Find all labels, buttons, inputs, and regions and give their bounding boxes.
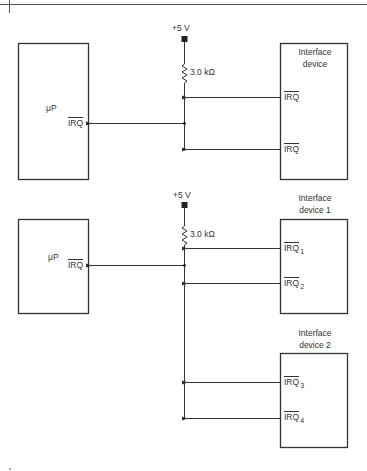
interface-device-1-box bbox=[281, 220, 348, 314]
pin-base: IRQ bbox=[284, 412, 299, 422]
processor-irq-pin-bottom: IRQ bbox=[68, 260, 83, 270]
device-irq-pin-1: IRQ bbox=[284, 92, 299, 102]
junction-dot-bottom bbox=[183, 264, 186, 267]
junction-dot-top bbox=[183, 122, 186, 125]
pin-sub: 2 bbox=[300, 283, 304, 290]
processor-irq-pin-top: IRQ bbox=[68, 118, 83, 128]
device-title-top: Interface device bbox=[283, 47, 347, 69]
device2-irq-pin-4: IRQ4 bbox=[284, 412, 304, 423]
resistor-label-bottom: 3.0 kΩ bbox=[190, 229, 215, 239]
device-title-line2: device bbox=[283, 59, 347, 69]
device1-title: Interface device 1 bbox=[283, 193, 347, 215]
pin-base: IRQ bbox=[284, 377, 299, 387]
device-irq-pin-2: IRQ bbox=[284, 144, 299, 154]
supply-label-bottom: +5 V bbox=[173, 190, 191, 200]
device2-title-line1: Interface bbox=[283, 328, 347, 338]
device1-irq-pin-1: IRQ1 bbox=[284, 243, 304, 254]
device2-irq-pin-3: IRQ3 bbox=[284, 377, 304, 388]
pin-sub: 3 bbox=[300, 382, 304, 389]
device-title-line1: Interface bbox=[283, 47, 347, 57]
supply-label-top: +5 V bbox=[172, 23, 190, 33]
circuit-diagram bbox=[0, 0, 367, 471]
resistor-label-top: 3.0 kΩ bbox=[190, 67, 215, 77]
interface-device-2-box bbox=[281, 354, 348, 448]
device2-title: Interface device 2 bbox=[283, 328, 347, 350]
device1-title-line2: device 1 bbox=[283, 205, 347, 215]
device1-title-line1: Interface bbox=[283, 193, 347, 203]
resistor-icon-bottom bbox=[182, 226, 187, 245]
pin-base: IRQ bbox=[284, 278, 299, 288]
pin-base: IRQ bbox=[284, 243, 299, 253]
processor-label-bottom: μP bbox=[48, 252, 59, 262]
device1-irq-pin-2: IRQ2 bbox=[284, 278, 304, 289]
pin-sub: 4 bbox=[300, 417, 304, 424]
supply-terminal-top bbox=[182, 36, 188, 42]
pin-sub: 1 bbox=[300, 248, 304, 255]
device2-title-line2: device 2 bbox=[283, 340, 347, 350]
supply-terminal-bottom bbox=[182, 202, 188, 208]
resistor-icon-top bbox=[182, 64, 187, 83]
processor-label-top: μP bbox=[46, 103, 57, 113]
